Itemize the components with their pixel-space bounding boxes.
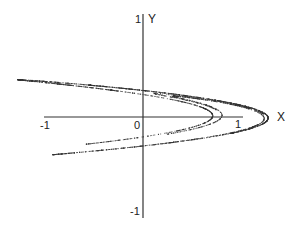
y-tick-label-pos1: 1 bbox=[135, 14, 141, 25]
y-axis-label: Y bbox=[148, 13, 156, 25]
y-tick-label-neg1: -1 bbox=[130, 206, 140, 217]
x-axis-label: X bbox=[277, 111, 285, 123]
x-tick-label-zero: 0 bbox=[134, 120, 140, 131]
x-tick-label-neg1: -1 bbox=[40, 120, 50, 131]
x-tick-label-pos1: 1 bbox=[235, 119, 241, 130]
chart-canvas bbox=[0, 0, 301, 230]
